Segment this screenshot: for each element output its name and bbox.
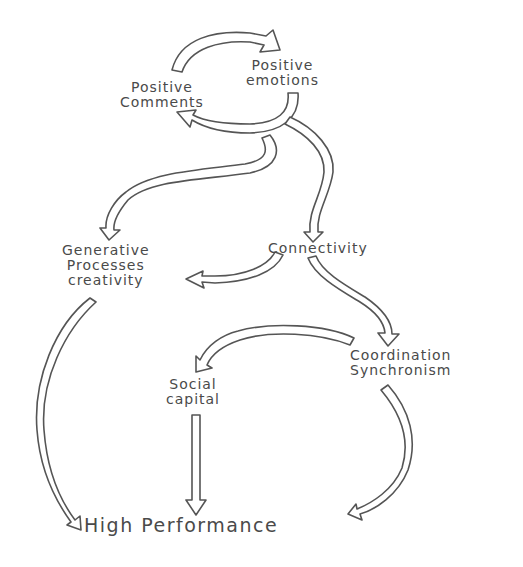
arrow-social-to-high-performance — [186, 415, 206, 515]
node-label: Coordination — [350, 348, 451, 363]
diagram-canvas: Positive Comments Positive emotions Gene… — [0, 0, 523, 567]
arrow-emotions-to-connectivity — [285, 117, 333, 242]
node-social-capital: Social capital — [166, 377, 220, 407]
node-label: capital — [166, 392, 220, 407]
node-label: Processes — [62, 258, 150, 273]
node-label: Positive — [246, 58, 319, 73]
arrow-emotions-to-generative — [100, 135, 276, 240]
node-label: High Performance — [84, 515, 278, 535]
node-label: Positive — [120, 80, 204, 95]
node-positive-comments: Positive Comments — [120, 80, 204, 110]
node-label: Generative — [62, 243, 150, 258]
node-label: creativity — [62, 273, 150, 288]
node-label: Social — [166, 377, 220, 392]
node-label: Comments — [120, 95, 204, 110]
node-positive-emotions: Positive emotions — [246, 58, 319, 88]
arrow-coordination-to-social — [196, 326, 354, 372]
node-generative-processes: Generative Processes creativity — [62, 243, 150, 288]
node-connectivity: Connectivity — [268, 241, 368, 256]
node-label: Synchronism — [350, 363, 451, 378]
arrow-generative-to-high-performance — [37, 298, 96, 530]
arrow-connectivity-to-generative — [186, 252, 283, 288]
arrow-coordination-to-high-performance — [348, 385, 412, 520]
node-label: Connectivity — [268, 241, 368, 256]
node-label: emotions — [246, 73, 319, 88]
node-coordination-synchronism: Coordination Synchronism — [350, 348, 451, 378]
node-high-performance: High Performance — [84, 515, 278, 535]
